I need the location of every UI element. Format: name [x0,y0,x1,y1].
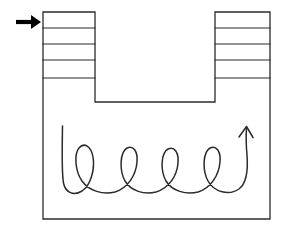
inlet-arrow-shaft [16,20,33,24]
diagram-svg [0,0,281,238]
diagram-canvas [0,0,281,238]
background [0,0,281,238]
